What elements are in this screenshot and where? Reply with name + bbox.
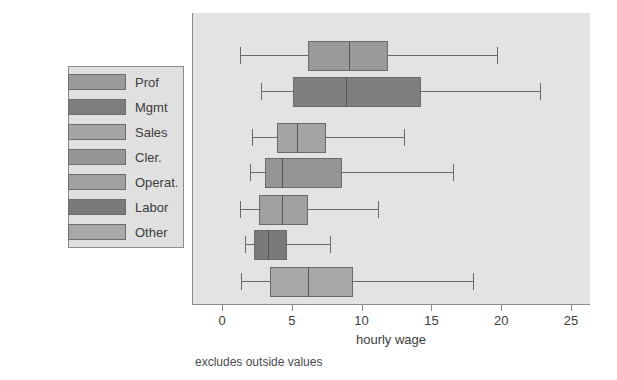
x-axis-line: [192, 304, 590, 305]
x-axis-tick: [222, 304, 223, 311]
legend-item[interactable]: Labor: [69, 196, 183, 218]
legend: ProfMgmtSalesCler.Operat.LaborOther: [68, 66, 184, 248]
whisker-cap-low: [241, 273, 242, 290]
whisker-cap-low: [261, 83, 262, 100]
legend-item-label: Other: [135, 226, 168, 239]
boxplot-sales: [193, 121, 590, 155]
whisker-cap-low: [250, 164, 251, 181]
whisker-cap-high: [540, 83, 541, 100]
median-line: [346, 77, 347, 107]
boxplot-prof: [193, 39, 590, 73]
median-line: [268, 230, 269, 260]
legend-item-label: Operat.: [135, 176, 178, 189]
median-line: [282, 195, 283, 225]
legend-swatch-icon: [68, 124, 126, 140]
median-line: [297, 123, 298, 153]
boxplot-labor: [193, 228, 590, 262]
legend-item[interactable]: Other: [69, 221, 183, 243]
legend-item-label: Mgmt: [135, 101, 168, 114]
median-line: [308, 267, 309, 297]
x-axis-tick: [501, 304, 502, 311]
whisker-line: [252, 137, 404, 138]
legend-swatch-icon: [68, 149, 126, 165]
x-axis-label: hourly wage: [356, 332, 426, 347]
box-iqr: [293, 77, 421, 107]
legend-item-label: Sales: [135, 126, 168, 139]
legend-item[interactable]: Operat.: [69, 171, 183, 193]
x-axis-tick: [431, 304, 432, 311]
boxplot-other: [193, 265, 590, 299]
whisker-cap-high: [378, 201, 379, 218]
box-iqr: [259, 195, 308, 225]
boxplot-mgmt: [193, 75, 590, 109]
median-line: [282, 158, 283, 188]
legend-swatch-icon: [68, 174, 126, 190]
box-iqr: [265, 158, 342, 188]
whisker-cap-low: [240, 47, 241, 64]
x-axis-tick-label: 25: [564, 313, 578, 328]
x-axis-tick-label: 20: [494, 313, 508, 328]
x-axis-tick-label: 5: [288, 313, 295, 328]
legend-item[interactable]: Cler.: [69, 146, 183, 168]
box-iqr: [277, 123, 326, 153]
legend-swatch-icon: [68, 224, 126, 240]
legend-item[interactable]: Sales: [69, 121, 183, 143]
legend-swatch-icon: [68, 74, 126, 90]
legend-item[interactable]: Prof: [69, 71, 183, 93]
x-axis-tick: [362, 304, 363, 311]
whisker-cap-high: [453, 164, 454, 181]
x-axis-tick-label: 10: [354, 313, 368, 328]
x-axis-tick-label: 15: [424, 313, 438, 328]
x-axis-tick: [292, 304, 293, 311]
boxplot-cler: [193, 156, 590, 190]
boxplot-operat: [193, 193, 590, 227]
x-axis-tick-label: 0: [218, 313, 225, 328]
whisker-cap-low: [252, 129, 253, 146]
box-iqr: [254, 230, 288, 260]
whisker-cap-high: [330, 236, 331, 253]
whisker-cap-high: [497, 47, 498, 64]
legend-swatch-icon: [68, 199, 126, 215]
legend-swatch-icon: [68, 99, 126, 115]
box-iqr: [270, 267, 352, 297]
legend-item[interactable]: Mgmt: [69, 96, 183, 118]
whisker-cap-low: [245, 236, 246, 253]
chart-footnote: excludes outside values: [195, 355, 322, 369]
chart-plot-area: [192, 13, 590, 304]
x-axis-tick: [571, 304, 572, 311]
boxplot-container: [193, 13, 590, 304]
median-line: [349, 41, 350, 71]
legend-item-label: Cler.: [135, 151, 162, 164]
legend-item-label: Prof: [135, 76, 159, 89]
legend-item-label: Labor: [135, 201, 168, 214]
whisker-cap-high: [404, 129, 405, 146]
whisker-cap-low: [240, 201, 241, 218]
whisker-cap-high: [473, 273, 474, 290]
